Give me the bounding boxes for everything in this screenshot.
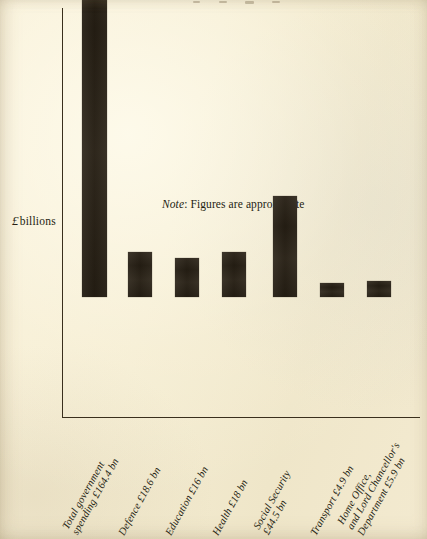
x-label-education: Education £16 bn [163,464,210,537]
bar-total-government-spending [82,0,107,297]
bar-transport [320,283,344,297]
x-label-defence: Defence £18.6 bn [116,465,163,537]
bar-education [175,258,199,297]
x-label-line: Education £16 bn [163,464,210,537]
x-label-home-office-and-lord-chancellors-department: Home Office,and Lord Chancellor'sDepartm… [335,435,412,537]
bar-defence [128,252,152,297]
chart-canvas: £billions Note: Figures are approximate … [0,0,427,539]
bar-home-office-and-lord-chancellors-department [367,281,391,297]
x-label-social-security: Social Security£44.5 bn [251,469,303,537]
bar-series [0,0,427,418]
x-label-line: Health £18 bn [210,477,250,537]
x-axis-labels: Total governmentspending £164.4 bnDefenc… [0,418,427,539]
bar-social-security [273,196,297,297]
x-label-total-government-spending: Total governmentspending £164.4 bn [60,451,121,537]
bar-health [222,252,246,297]
x-label-line: Defence £18.6 bn [116,465,163,537]
x-label-health: Health £18 bn [210,477,250,537]
